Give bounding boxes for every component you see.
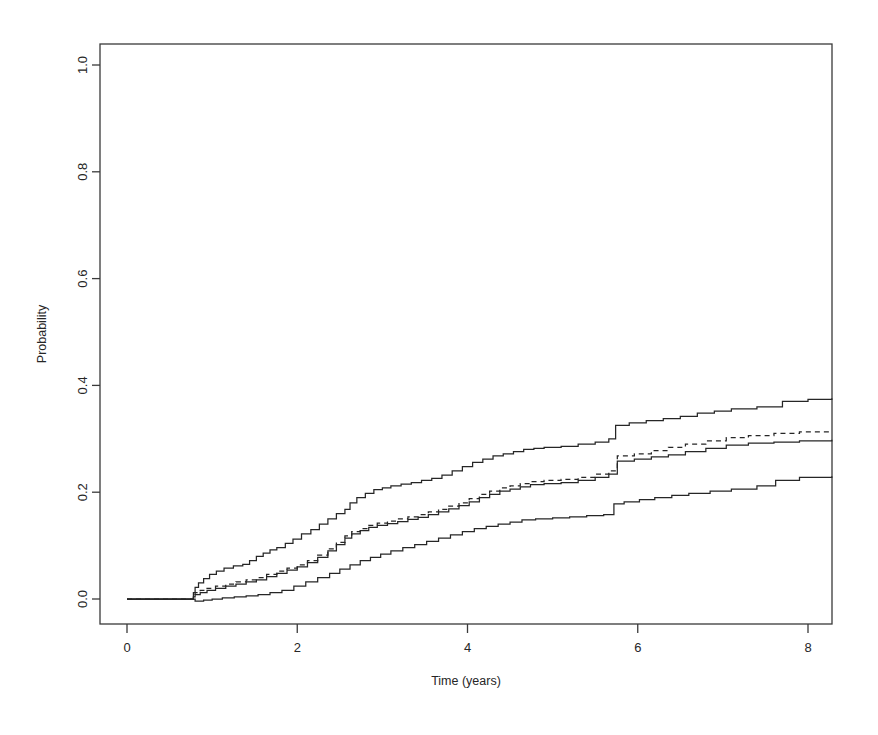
x-axis-title: Time (years) bbox=[431, 674, 501, 688]
x-axis-tick-label: 4 bbox=[464, 640, 471, 655]
cumulative-incidence-chart: 0.00.20.40.60.81.002468 Time (years)Prob… bbox=[0, 0, 878, 735]
x-axis-tick-label: 0 bbox=[123, 640, 130, 655]
y-axis-tick-label: 0.2 bbox=[75, 483, 90, 501]
y-axis-tick-label: 0.8 bbox=[75, 163, 90, 181]
y-axis-title: Probability bbox=[35, 304, 49, 363]
y-axis-tick-label: 1.0 bbox=[75, 56, 90, 74]
y-axis-tick-label: 0.6 bbox=[75, 270, 90, 288]
y-axis-tick-label: 0.4 bbox=[75, 376, 90, 394]
x-axis-tick-label: 6 bbox=[634, 640, 641, 655]
x-axis-tick-label: 2 bbox=[294, 640, 301, 655]
x-axis-tick-label: 8 bbox=[804, 640, 811, 655]
figure-container: 0.00.20.40.60.81.002468 Time (years)Prob… bbox=[0, 0, 878, 735]
y-axis-tick-label: 0.0 bbox=[75, 590, 90, 608]
chart-background bbox=[0, 0, 878, 735]
